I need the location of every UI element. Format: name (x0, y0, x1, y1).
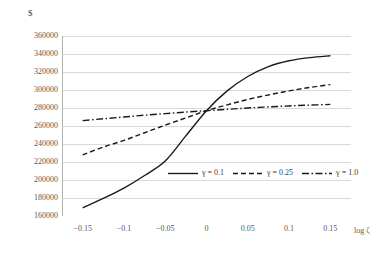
legend-label: γ = 1.0 (336, 168, 358, 177)
x-axis-tick-label: 0.05 (227, 224, 269, 233)
legend-line-swatch (302, 169, 332, 177)
y-axis-tick-label: 200000 (14, 176, 58, 184)
y-axis-tick-label: 160000 (14, 212, 58, 220)
x-axis-tick-label: −0.15 (62, 224, 104, 233)
series-line-2 (83, 104, 331, 120)
series-line-0 (83, 56, 331, 208)
legend-entry: γ = 0.1 (168, 168, 224, 177)
y-axis-tick-labels: 3600003400003200003000002800002600002400… (10, 0, 58, 257)
y-axis-tick-label: 220000 (14, 158, 58, 166)
y-axis-tick-label: 240000 (14, 140, 58, 148)
x-axis-tick-label: 0.15 (309, 224, 351, 233)
y-axis-tick-label: 360000 (14, 32, 58, 40)
y-axis-tick-label: 180000 (14, 194, 58, 202)
legend-entry: γ = 0.25 (233, 168, 293, 177)
y-axis-tick-label: 340000 (14, 50, 58, 58)
legend-line-swatch (168, 169, 198, 177)
legend-entry: γ = 1.0 (302, 168, 358, 177)
legend-label: γ = 0.1 (202, 168, 224, 177)
x-axis-tick-label: 0 (186, 224, 228, 233)
y-axis-tick-label: 260000 (14, 122, 58, 130)
legend-label: γ = 0.25 (267, 168, 293, 177)
x-axis-tick-label: −0.05 (144, 224, 186, 233)
chart-figure: $ 36000034000032000030000028000026000024… (0, 0, 390, 257)
x-axis-tick-label: 0.1 (268, 224, 310, 233)
x-axis-tick-label: −0.1 (103, 224, 145, 233)
y-axis-tick-label: 300000 (14, 86, 58, 94)
chart-legend: γ = 0.1γ = 0.25γ = 1.0 (168, 168, 358, 177)
y-axis-tick-label: 280000 (14, 104, 58, 112)
x-axis-label: log ζ (354, 226, 370, 235)
legend-line-swatch (233, 169, 263, 177)
plot-area (62, 36, 351, 216)
chart-canvas (62, 36, 351, 216)
y-axis-tick-label: 320000 (14, 68, 58, 76)
